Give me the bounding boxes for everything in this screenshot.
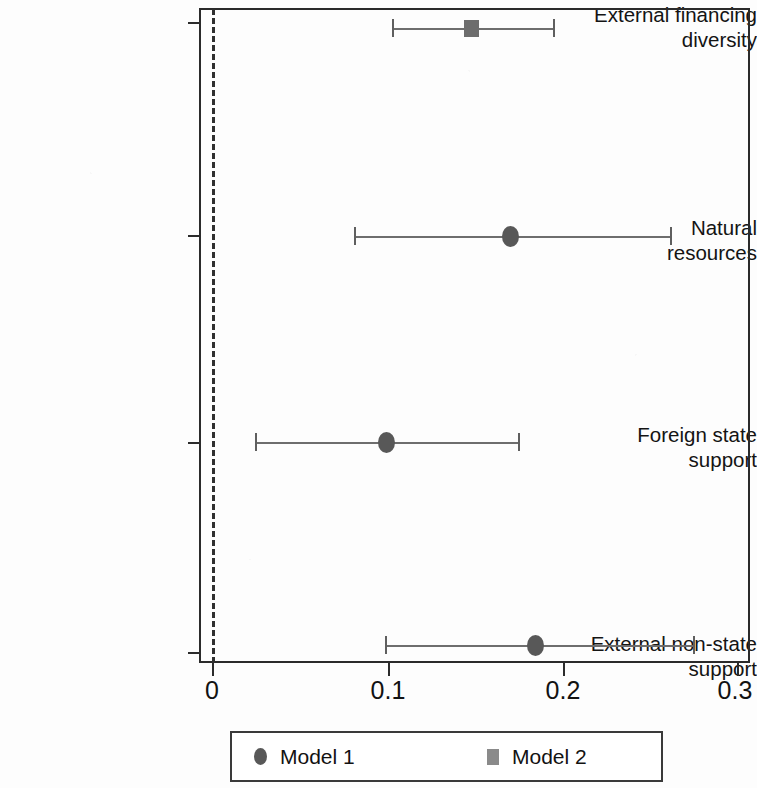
ci-cap-high — [693, 636, 695, 654]
legend-label-model-2: Model 2 — [512, 745, 587, 769]
legend-label-model-1: Model 1 — [280, 745, 355, 769]
x-axis-label-0: 0 — [205, 676, 219, 705]
ci-cap-low — [385, 636, 387, 654]
x-axis-tick-1 — [388, 663, 390, 676]
point-estimate-marker-circle — [527, 635, 544, 656]
ci-cap-high — [553, 19, 555, 37]
ci-cap-high — [518, 433, 520, 451]
plot-area — [199, 8, 750, 663]
x-axis-tick-2 — [563, 663, 565, 676]
ci-cap-low — [354, 227, 356, 245]
circle-marker-icon — [254, 748, 267, 765]
x-axis-label-3: 0.3 — [718, 676, 753, 705]
ci-cap-high — [670, 227, 672, 245]
legend-entry-model-2: Model 2 — [487, 745, 587, 769]
forest-plot-figure: External financing diversity Natural res… — [0, 0, 757, 788]
zero-reference-line — [212, 9, 215, 663]
x-axis-tick-3 — [737, 663, 739, 676]
x-axis-label-2: 0.2 — [546, 676, 581, 705]
square-marker-icon — [487, 749, 499, 765]
legend: Model 1 Model 2 — [230, 731, 663, 782]
point-estimate-marker-square — [464, 20, 479, 37]
x-axis-tick-0 — [212, 663, 214, 676]
ci-cap-low — [255, 433, 257, 451]
ci-cap-low — [392, 19, 394, 37]
point-estimate-marker-circle — [502, 226, 519, 247]
x-axis-label-1: 0.1 — [371, 676, 406, 705]
point-estimate-marker-circle — [378, 432, 395, 453]
legend-entry-model-1: Model 1 — [254, 745, 355, 769]
